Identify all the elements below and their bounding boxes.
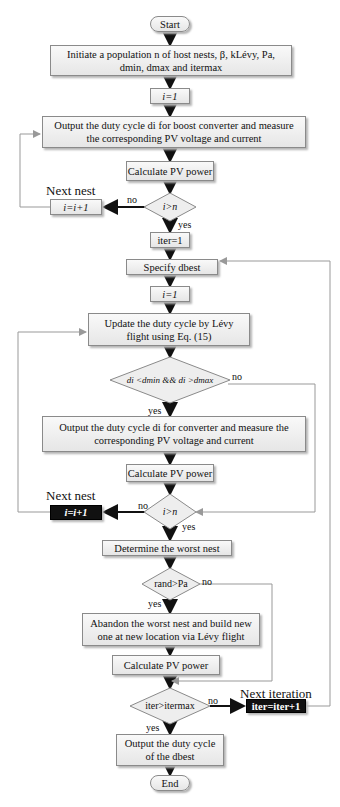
update-duty-line2: flight using Eq. (15) (126, 330, 211, 343)
no-label-4: no (202, 576, 212, 587)
no-label-2: no (232, 371, 242, 382)
calc-power-2: Calculate PV power (126, 464, 214, 482)
output-duty-1-line1: Output the duty cycle di for boost conve… (54, 119, 293, 132)
no-label-1: no (127, 194, 137, 205)
iter-init: iter=1 (150, 232, 190, 248)
output-best-line1: Output the duty cycle (125, 737, 216, 750)
abandon-line1: Abandon the worst nest and build new (90, 617, 252, 630)
i-init-1-label: i=1 (162, 90, 177, 103)
i-init-2-label: i=1 (162, 288, 177, 301)
increment-iter: iter=iter+1 (246, 699, 306, 713)
calc-power-1: Calculate PV power (126, 161, 214, 181)
output-best-line2: of the dbest (146, 750, 195, 763)
decision-1-text: i>n (150, 201, 190, 213)
iter-init-label: iter=1 (157, 234, 182, 247)
increment-iter-label: iter=iter+1 (252, 700, 301, 713)
i-init-1: i=1 (150, 88, 190, 104)
increment-1: i=i+1 (50, 199, 102, 215)
i-init-2: i=1 (150, 286, 190, 302)
worst-nest-label: Determine the worst nest (114, 542, 219, 555)
abandon-line2: one at new location via Lévy flight (98, 630, 245, 643)
decision-5-text: iter>itermax (138, 700, 202, 712)
abandon-nest: Abandon the worst nest and build new one… (82, 613, 260, 646)
no-label-5: no (208, 695, 218, 706)
end-terminal: End (150, 775, 190, 791)
specify-best: Specify dbest (126, 259, 218, 275)
update-duty-line1: Update the duty cycle by Lévy (104, 317, 233, 330)
update-duty: Update the duty cycle by Lévy flight usi… (88, 313, 250, 346)
calc-power-3-label: Calculate PV power (124, 659, 208, 672)
calc-power-1-label: Calculate PV power (128, 165, 212, 178)
start-label: Start (160, 18, 180, 31)
next-nest-label-2: Next nest (46, 489, 95, 503)
end-label: End (162, 777, 179, 790)
calc-power-3: Calculate PV power (112, 655, 220, 675)
yes-label-5: yes (146, 722, 159, 733)
specify-best-label: Specify dbest (144, 261, 201, 274)
output-best: Output the duty cycle of the dbest (116, 734, 224, 766)
decision-3-text: i>n (150, 506, 190, 518)
start-terminal: Start (150, 16, 190, 32)
increment-2-label: i=i+1 (64, 506, 87, 519)
decision-4-text: rand>Pa (146, 578, 196, 590)
init-line1: Initiate a population n of host nests, β… (67, 48, 275, 61)
yes-label-4: yes (148, 598, 161, 609)
yes-label-2: yes (148, 405, 161, 416)
yes-label-1: yes (178, 219, 191, 230)
no-label-3: no (138, 500, 148, 511)
decision-2-text: di <dmin && di >dmax (116, 374, 224, 386)
output-duty-2-line1: Output the duty cycle di for converter a… (59, 421, 288, 434)
yes-label-3: yes (182, 521, 195, 532)
next-nest-label-1: Next nest (46, 184, 95, 198)
increment-1-label: i=i+1 (63, 201, 88, 214)
init-line2: dmin, dmax and itermax (120, 61, 223, 74)
init-process: Initiate a population n of host nests, β… (50, 45, 292, 76)
calc-power-2-label: Calculate PV power (128, 467, 212, 480)
worst-nest: Determine the worst nest (102, 540, 232, 556)
output-duty-1: Output the duty cycle di for boost conve… (42, 116, 306, 148)
output-duty-2: Output the duty cycle di for converter a… (42, 416, 306, 452)
output-duty-1-line2: the corresponding PV voltage and current (86, 132, 261, 145)
increment-2: i=i+1 (50, 505, 102, 520)
output-duty-2-line2: corresponding PV voltage and current (94, 434, 254, 447)
